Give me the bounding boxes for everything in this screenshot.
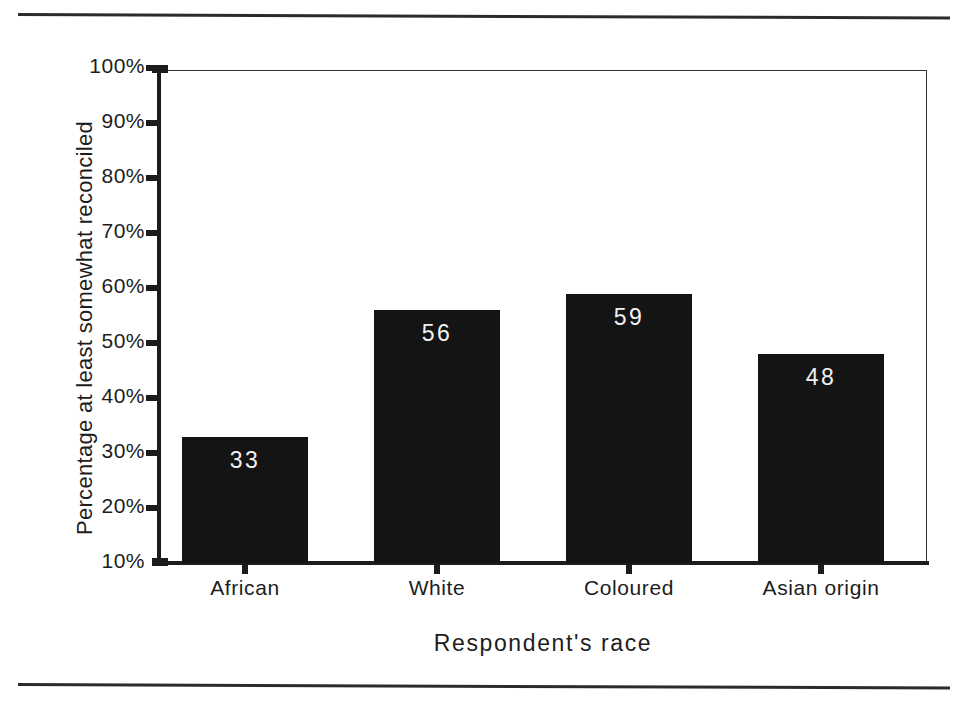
y-axis-tick [146,340,161,346]
bar [566,294,692,564]
bar-value-label: 59 [566,304,692,331]
y-axis-tick [146,395,161,401]
x-axis-tick-label: Coloured [519,576,739,600]
x-axis-tick [434,563,440,574]
x-axis-tick [818,563,824,574]
figure-container: 100%90%80%70%60%50%40%30%20%10% 33565948… [0,0,964,708]
x-axis-tick [242,563,248,574]
bar-value-label: 48 [758,364,884,391]
y-axis-tick [146,230,161,236]
y-axis-title: Percentage at least somewhat reconciled [72,93,98,563]
y-axis-tick [146,65,161,71]
y-axis-tick [146,505,161,511]
x-axis-tick-label: African [135,576,355,600]
top-horizontal-rule [18,13,950,20]
bottom-horizontal-rule [18,683,950,690]
y-axis-tick [146,175,161,181]
x-axis-title: Respondent's race [159,630,927,657]
x-axis-tick [626,563,632,574]
axis-origin-cap [152,558,168,566]
x-axis-tick-label: Asian origin [711,576,931,600]
y-axis-tick [146,120,161,126]
bar [374,310,500,563]
y-axis-line [157,68,161,565]
y-axis-tick [146,285,161,291]
bar-value-label: 56 [374,320,500,347]
x-axis-tick-label: White [327,576,547,600]
y-axis-tick-label: 100% [40,54,145,78]
y-axis-tick [146,450,161,456]
bar-value-label: 33 [182,447,308,474]
